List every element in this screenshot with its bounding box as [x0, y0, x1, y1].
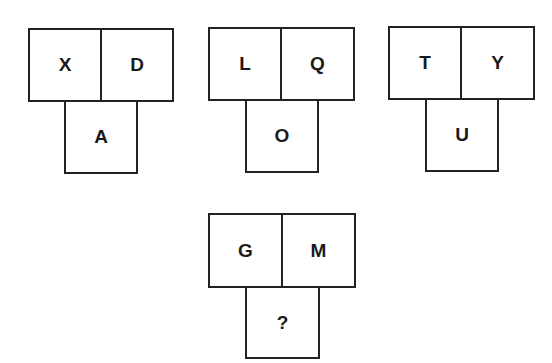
- cell-top-left: L: [208, 27, 282, 101]
- cell-bottom: U: [425, 98, 499, 172]
- cell-top-left: G: [208, 213, 283, 288]
- cell-top-left: X: [28, 28, 102, 102]
- cell-top-right: M: [281, 213, 356, 288]
- cell-top-right: Y: [460, 26, 535, 100]
- cell-top-left: T: [388, 26, 462, 100]
- cell-top-right: Q: [280, 27, 355, 101]
- cell-bottom-unknown: ?: [245, 286, 320, 359]
- cell-bottom: A: [64, 100, 138, 174]
- cell-bottom: O: [245, 99, 319, 173]
- cell-top-right: D: [100, 28, 174, 102]
